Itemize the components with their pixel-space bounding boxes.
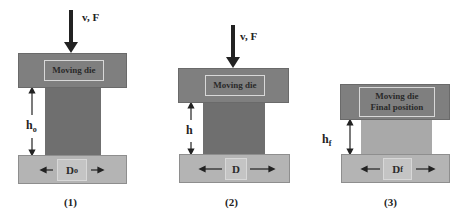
moving-die-label-3: Moving dieFinal position <box>359 87 435 117</box>
bottom-die-1: Do <box>18 155 127 184</box>
moving-die-1: Moving die <box>18 53 127 88</box>
diameter-arrows-3 <box>342 155 451 184</box>
caption-2: (2) <box>225 196 238 208</box>
caption-3: (3) <box>384 196 397 208</box>
moving-die-2: Moving die <box>178 68 289 103</box>
force-arrow-2 <box>226 25 240 68</box>
bottom-die-2: D <box>179 154 290 183</box>
workpiece-3 <box>361 120 432 154</box>
caption-1: (1) <box>64 196 77 208</box>
force-arrow-1 <box>64 10 78 53</box>
force-label-1: v, F <box>82 11 99 23</box>
diameter-arrows-1 <box>19 156 128 185</box>
moving-die-label-1: Moving die <box>44 60 104 81</box>
height-label-1: ho <box>26 118 37 134</box>
moving-die-label-2: Moving die <box>205 75 265 96</box>
moving-die-final: Moving dieFinal position <box>340 84 450 120</box>
workpiece-1 <box>45 88 101 155</box>
workpiece-2 <box>203 103 265 154</box>
diameter-arrows-2 <box>180 155 291 184</box>
force-label-2: v, F <box>240 30 257 42</box>
bottom-die-3: Df <box>341 154 450 183</box>
height-label-2: h <box>186 123 193 139</box>
height-label-3: hf <box>322 132 331 148</box>
